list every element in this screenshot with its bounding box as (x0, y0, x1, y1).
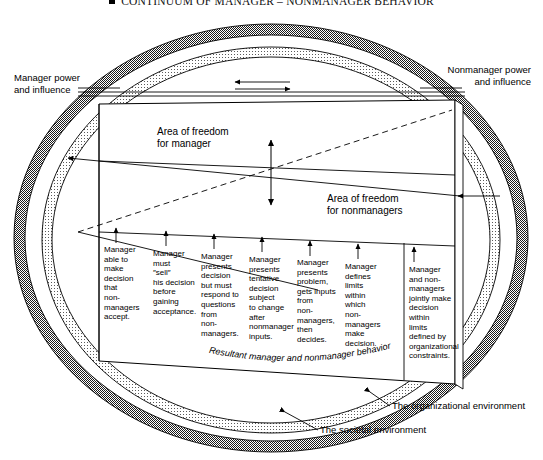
nonmanager-power-label: Nonmanager power and influence (448, 64, 531, 87)
societal-environment-label: The societal environment (320, 424, 426, 436)
organizational-environment-label: The organizational environment (392, 400, 525, 412)
area-freedom-nonmanagers-label: Area of freedom for nonmanagers (327, 193, 403, 217)
area-freedom-manager-label: Area of freedom for manager (157, 126, 229, 150)
manager-power-label: Manager power and influence (14, 72, 80, 95)
figure-continuum-diagram: CONTINUUM OF MANAGER – NONMANAGER BEHAVI… (0, 0, 543, 460)
behavior-column-7: Manager and non- managers jointly make d… (409, 265, 461, 361)
behavior-column-6: Manager defines limits within which non-… (345, 262, 403, 348)
